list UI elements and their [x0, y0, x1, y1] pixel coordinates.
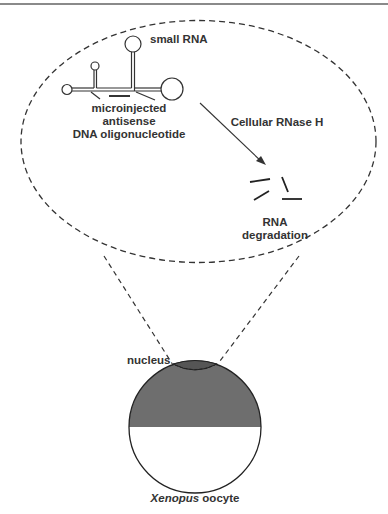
label-result-line1: RNA [263, 216, 288, 228]
nucleus-zoom-ellipse [21, 21, 376, 263]
antisense-oligo-diagram: small RNA microinjected antisense DNA ol… [0, 0, 388, 514]
label-oocyte: Xenopus oocyte [150, 492, 240, 504]
label-result-line2: degradation [242, 229, 308, 241]
label-oocyte-rest: oocyte [199, 492, 239, 504]
label-oocyte-species: Xenopus [150, 492, 200, 504]
rna-fragments-icon [250, 177, 302, 200]
oocyte [129, 361, 261, 495]
animal-pole [129, 361, 261, 427]
small-rna-structure-icon [62, 36, 183, 100]
label-small-rna: small RNA [150, 33, 208, 45]
zoom-line-right [217, 256, 299, 365]
label-nucleus: nucleus [127, 354, 170, 366]
label-oligo-line2: antisense [102, 115, 155, 127]
reaction-arrow-shaft [200, 103, 262, 162]
label-enzyme: Cellular RNase H [231, 116, 324, 128]
vegetal-pole [129, 427, 261, 494]
label-oligo-line3: DNA oligonucleotide [73, 128, 186, 140]
label-oligo-line1: microinjected [92, 102, 167, 114]
zoom-line-left [104, 256, 173, 365]
